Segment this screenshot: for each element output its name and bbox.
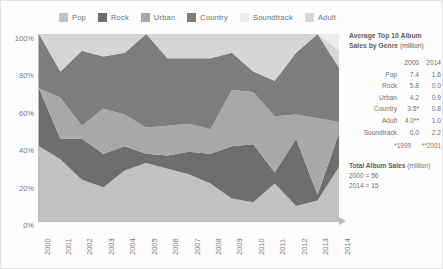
legend-label-soundtrack: Soundtrack <box>253 13 293 22</box>
row-value-2014-adult: 1.0 <box>419 115 441 127</box>
legend-label-pop: Pop <box>72 13 86 22</box>
panel-title-line1: Average Top 10 Album <box>349 32 422 39</box>
x-tick-2012: 2012 <box>300 238 309 255</box>
x-tick-2002: 2002 <box>85 238 94 255</box>
x-tick-2008: 2008 <box>214 238 223 255</box>
y-tick-20pct: 20% <box>19 184 34 193</box>
x-tick-2009: 2009 <box>235 238 244 255</box>
x-tick-2000: 2000 <box>43 238 52 255</box>
y-tick-40pct: 40% <box>19 146 34 155</box>
footnote-1: *1999 <box>394 142 411 149</box>
legend-item-adult[interactable]: Adult <box>305 13 336 22</box>
panel-title: Average Top 10 Album Sales by Genre (mil… <box>349 31 441 51</box>
row-value-2014-soundtrack: 2.2 <box>419 126 441 138</box>
x-axis-line <box>38 221 341 222</box>
y-tick-80pct: 80% <box>19 71 34 80</box>
genre-sales-table: 2000 2014 Pop7.41.6Rock5.80.0Urban4.20.9… <box>349 57 441 138</box>
row-value-2000-adult: 4.0** <box>397 115 419 127</box>
x-axis-labels: 2000200120022003200420052006200720082009… <box>39 225 341 267</box>
table-header-row: 2000 2014 <box>349 57 441 69</box>
y-tick-0pct: 0% <box>23 221 34 230</box>
legend-label-country: Country <box>200 13 228 22</box>
legend-swatch-rock-icon <box>98 13 107 22</box>
legend-label-adult: Adult <box>318 13 336 22</box>
legend-swatch-pop-icon <box>59 13 68 22</box>
row-label-soundtrack: Soundtrack <box>349 126 397 138</box>
side-panel: Average Top 10 Album Sales by Genre (mil… <box>349 31 441 192</box>
x-tick-2004: 2004 <box>128 238 137 255</box>
x-tick-2011: 2011 <box>278 239 287 255</box>
y-tick-100pct: 100% <box>15 34 34 43</box>
table-row: Urban4.20.9 <box>349 91 441 103</box>
table-header-2014: 2014 <box>419 57 441 69</box>
table-row: Soundtrack0.02.2 <box>349 126 441 138</box>
x-tick-2003: 2003 <box>107 238 116 255</box>
x-axis-arrow-icon <box>339 217 346 225</box>
legend-item-rock[interactable]: Rock <box>98 13 129 22</box>
y-tick-60pct: 60% <box>19 109 34 118</box>
table-footnotes: *1999 **2001 <box>349 142 441 149</box>
chart-figure: PopRockUrbanCountrySoundtrackAdult 100%8… <box>1 1 442 268</box>
legend-label-urban: Urban <box>154 13 175 22</box>
row-value-2000-soundtrack: 0.0 <box>397 126 419 138</box>
legend-item-soundtrack[interactable]: Soundtrack <box>240 13 293 22</box>
chart-legend: PopRockUrbanCountrySoundtrackAdult <box>59 13 336 22</box>
table-header-blank <box>349 57 397 69</box>
table-row: Rock5.80.0 <box>349 80 441 92</box>
legend-item-urban[interactable]: Urban <box>141 13 175 22</box>
total-sales-2014: 2014 = 15 <box>349 181 441 191</box>
table-row: Adult4.0**1.0 <box>349 115 441 127</box>
row-label-country: Country <box>349 103 397 115</box>
row-value-2014-urban: 0.9 <box>419 91 441 103</box>
legend-swatch-country-icon <box>187 13 196 22</box>
row-value-2014-country: 0.8 <box>419 103 441 115</box>
footnote-2: **2001 <box>422 142 441 149</box>
x-tick-2007: 2007 <box>193 238 202 255</box>
legend-swatch-adult-icon <box>305 13 314 22</box>
row-value-2014-pop: 1.6 <box>419 68 441 80</box>
legend-swatch-soundtrack-icon <box>240 13 249 22</box>
x-tick-2005: 2005 <box>150 238 159 255</box>
row-value-2014-rock: 0.0 <box>419 80 441 92</box>
legend-item-pop[interactable]: Pop <box>59 13 86 22</box>
legend-swatch-urban-icon <box>141 13 150 22</box>
x-tick-2010: 2010 <box>257 238 266 255</box>
x-tick-2013: 2013 <box>321 238 330 255</box>
table-row: Country3.5*0.8 <box>349 103 441 115</box>
row-value-2000-rock: 5.8 <box>397 80 419 92</box>
table-header-2000: 2000 <box>397 57 419 69</box>
legend-label-rock: Rock <box>111 13 129 22</box>
table-row: Pop7.41.6 <box>349 68 441 80</box>
row-value-2000-pop: 7.4 <box>397 68 419 80</box>
row-value-2000-country: 3.5* <box>397 103 419 115</box>
total-sales-unit: (million) <box>407 162 430 169</box>
x-tick-2014: 2014 <box>343 238 352 255</box>
plot-area <box>39 34 339 221</box>
x-tick-2006: 2006 <box>171 238 180 255</box>
panel-title-unit: (million) <box>400 42 424 49</box>
row-label-adult: Adult <box>349 115 397 127</box>
x-tick-2001: 2001 <box>64 238 73 255</box>
stacked-area-chart <box>39 34 339 221</box>
total-sales-label: Total Album Sales <box>349 162 405 169</box>
total-sales-block: Total Album Sales (million) 2000 = 56 20… <box>349 161 441 192</box>
row-label-rock: Rock <box>349 80 397 92</box>
y-axis-labels: 100%80%60%40%20%0% <box>1 28 37 228</box>
row-label-urban: Urban <box>349 91 397 103</box>
panel-title-line2: Sales by Genre <box>349 42 398 49</box>
row-value-2000-urban: 4.2 <box>397 91 419 103</box>
row-label-pop: Pop <box>349 68 397 80</box>
legend-item-country[interactable]: Country <box>187 13 228 22</box>
total-sales-title: Total Album Sales (million) <box>349 161 441 171</box>
total-sales-2000: 2000 = 56 <box>349 171 441 181</box>
